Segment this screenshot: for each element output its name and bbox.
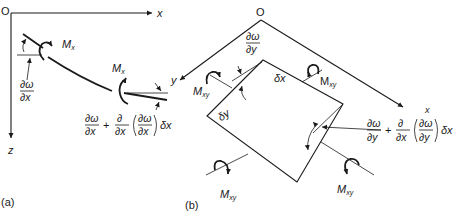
panel-a: O x z Mx ∂ω ∂x Mx ∂ω — [1, 5, 172, 208]
svg-text:∂ω: ∂ω — [367, 117, 380, 129]
y-axis-label-b: y — [170, 74, 178, 86]
x-axis-b — [261, 20, 403, 107]
slope-arc-right — [308, 125, 316, 150]
moment-arrow-right — [120, 80, 129, 104]
moment-label-mxy-bottom-right: Mxy — [337, 183, 354, 197]
svg-text:δx: δx — [160, 119, 172, 131]
slope-arrow-bottom-right — [156, 102, 159, 110]
svg-text:+: + — [103, 119, 109, 131]
edge-dy-label: δy — [215, 106, 233, 123]
plate-bending-diagram: O x z Mx ∂ω ∂x Mx ∂ω — [0, 0, 461, 217]
svg-text:∂ω: ∂ω — [138, 112, 151, 124]
slope-expression-right: ∂ω ∂x + ∂ ∂x ∂ω ∂x δx — [85, 112, 172, 137]
svg-text:+: + — [385, 124, 391, 136]
svg-text:∂y: ∂y — [419, 131, 430, 143]
origin-label-b: O — [256, 6, 265, 18]
svg-text:∂x: ∂x — [396, 131, 407, 143]
moment-arrow-mxy-bottom-right — [345, 159, 359, 172]
x-axis-label-b: x — [424, 105, 430, 115]
slope-leader-left — [27, 58, 30, 80]
svg-text:∂: ∂ — [117, 112, 122, 124]
svg-text:∂ω: ∂ω — [85, 112, 98, 124]
svg-text:δx: δx — [441, 124, 453, 136]
panel-b: O x y δx δy ∂ω ∂y ∂ω ∂y + ∂ ∂x — [170, 6, 453, 211]
slope-arc-top — [242, 86, 247, 100]
moment-arrow-mxy-left — [207, 72, 220, 84]
slope-fraction-left: ∂ω ∂x — [20, 78, 34, 103]
moment-label-mxy-left: Mxy — [193, 85, 210, 99]
slope-expression-right-b: ∂ω ∂y + ∂ ∂x ∂ω ∂y δx — [367, 117, 453, 143]
caption-b: (b) — [185, 199, 198, 211]
svg-text:∂ω: ∂ω — [20, 78, 33, 90]
moment-label-right: Mx — [112, 62, 125, 75]
deflected-beam — [48, 57, 112, 91]
x-axis-label-a: x — [156, 7, 163, 19]
slope-arc-left — [23, 39, 26, 52]
slope-ref-top — [232, 62, 262, 81]
svg-text:∂y: ∂y — [367, 131, 378, 143]
svg-text:∂x: ∂x — [138, 125, 149, 137]
svg-text:∂: ∂ — [398, 117, 403, 129]
moment-label-left: Mx — [62, 38, 75, 51]
slope-fraction-top: ∂ω ∂y — [246, 30, 260, 55]
slope-arrow-top — [238, 66, 241, 74]
svg-text:∂x: ∂x — [20, 91, 31, 103]
origin-label-a: O — [1, 5, 10, 17]
svg-text:∂ω: ∂ω — [419, 117, 432, 129]
edge-dx-label: δx — [274, 72, 286, 84]
slope-arrow-top-right — [155, 83, 161, 91]
moment-label-mxy-top: Mxy — [320, 75, 337, 89]
z-axis-label-a: z — [7, 144, 14, 156]
beam-right-segment — [124, 93, 167, 100]
svg-text:∂x: ∂x — [85, 125, 96, 137]
svg-text:∂y: ∂y — [246, 43, 257, 55]
svg-text:∂ω: ∂ω — [246, 30, 259, 42]
moment-label-mxy-bottom-left: Mxy — [220, 188, 237, 202]
caption-a: (a) — [1, 196, 14, 208]
svg-text:∂x: ∂x — [115, 125, 126, 137]
